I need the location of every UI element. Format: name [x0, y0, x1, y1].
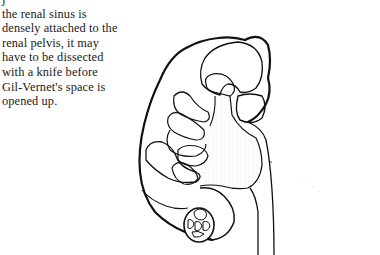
speck: [270, 161, 272, 163]
upper-right-lobe: [236, 94, 265, 123]
kidney-drawing: [128, 24, 380, 255]
kidney-illustration: [128, 24, 380, 255]
speck: [313, 186, 314, 187]
renal-pelvis: [196, 94, 260, 189]
middle-papilla-1: [168, 113, 205, 140]
lower-pole-outer: [142, 190, 188, 209]
text-line-cutoff: j: [2, 0, 162, 7]
text-line: the renal sinus is: [2, 7, 162, 22]
speck: [319, 191, 320, 192]
lower-middle-calyx: [146, 142, 200, 183]
middle-calyx-cup: [167, 130, 206, 156]
speck: [304, 180, 305, 181]
ureter-left-wall: [250, 188, 258, 255]
middle-left-calyx: [174, 92, 210, 122]
upper-calyx: [201, 42, 263, 95]
